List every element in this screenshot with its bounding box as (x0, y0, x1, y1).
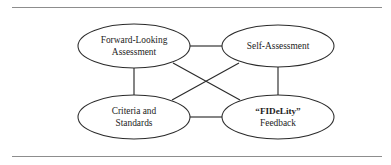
node-fidelity-feedback-line1: “FIDeLity” (255, 106, 301, 116)
figure-rule-bottom (12, 156, 382, 157)
node-criteria-and-standards (78, 95, 190, 139)
node-fidelity-feedback-line2: Feedback (260, 118, 296, 128)
concept-diagram: Forward-Looking Assessment Self-Assessme… (0, 0, 391, 165)
node-forward-looking-assessment (78, 24, 190, 68)
node-criteria-and-standards-line1: Criteria and (112, 106, 157, 116)
node-fidelity-feedback (222, 95, 334, 139)
figure-frame: Forward-Looking Assessment Self-Assessme… (0, 0, 391, 165)
node-forward-looking-assessment-line2: Assessment (112, 47, 157, 57)
node-forward-looking-assessment-line1: Forward-Looking (101, 35, 168, 45)
node-criteria-and-standards-line2: Standards (116, 118, 153, 128)
node-self-assessment-line1: Self-Assessment (247, 41, 310, 51)
